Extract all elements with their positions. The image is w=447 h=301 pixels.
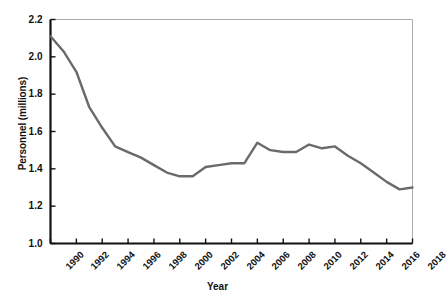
data-series-line	[51, 36, 413, 189]
y-tick-label: 2.2	[9, 14, 43, 25]
y-axis-title: Personnel (millions)	[17, 44, 28, 204]
x-axis-title: Year	[0, 281, 435, 292]
y-tick-label: 1.0	[9, 238, 43, 249]
